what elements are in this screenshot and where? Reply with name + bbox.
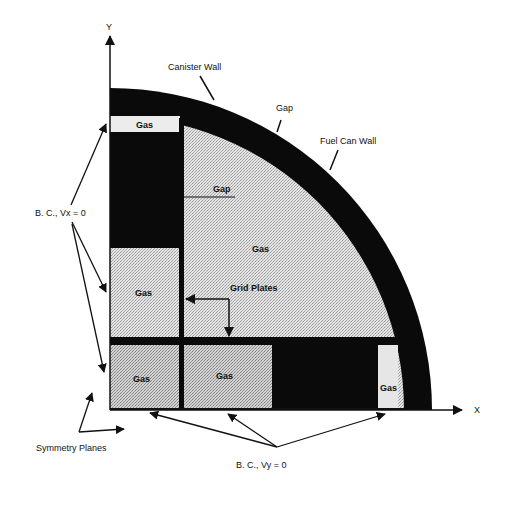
bc-vx-arrow-middle <box>72 222 106 292</box>
symmetry-arrow-up <box>79 393 92 432</box>
gap-outer-label: Gap <box>276 103 293 113</box>
bc-vy-arrow-left <box>150 413 277 447</box>
fuel-can-wall-label: Fuel Can Wall <box>320 136 376 146</box>
bc-vx-arrow-bottom <box>72 224 104 372</box>
canister-cross-section-diagram: Y X Canister Wall Gap Fuel Can Wall Gap … <box>0 0 507 505</box>
symmetry-arrow-right <box>79 429 124 432</box>
symmetry-planes-label: Symmetry Planes <box>36 443 107 453</box>
x-axis-label: X <box>474 405 480 415</box>
bc-vy-arrow-right <box>277 414 385 447</box>
fuel-block-left <box>110 132 180 248</box>
y-axis-label: Y <box>106 22 112 32</box>
grid-plate-vertical <box>179 118 184 409</box>
canister-wall-label: Canister Wall <box>168 62 221 72</box>
grid-plates-label: Grid Plates <box>230 283 278 293</box>
grid-plate-horizontal <box>110 337 400 345</box>
gas-bottom-middle-label: Gas <box>216 371 233 381</box>
bc-vy-arrow-middle <box>228 414 277 447</box>
gas-bottom-left-label: Gas <box>133 374 150 384</box>
gas-top-strip-label: Gas <box>136 120 153 130</box>
fuel-can-wall-leader <box>330 150 338 170</box>
fuel-block-bottom <box>272 345 378 408</box>
gap-outer-leader <box>277 120 281 132</box>
bc-vy-label: B. C., Vy = 0 <box>236 460 286 470</box>
gas-center-label: Gas <box>252 244 269 254</box>
gas-bottom-right-label: Gas <box>380 383 397 393</box>
gas-bottom-right <box>378 345 398 408</box>
gas-left-middle-label: Gas <box>135 288 152 298</box>
bc-vx-label: B. C., Vx = 0 <box>35 208 86 218</box>
bc-vx-arrow-top <box>71 124 106 205</box>
gap-inner-label: Gap <box>213 184 231 194</box>
canister-wall-leader <box>200 76 214 100</box>
